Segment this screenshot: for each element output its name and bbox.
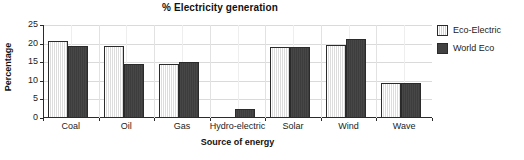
y-tick-label: 5	[20, 94, 38, 103]
legend-item[interactable]: Eco-Electric	[437, 22, 523, 38]
legend-label: World Eco	[453, 43, 494, 53]
bar	[124, 64, 144, 118]
plot-area	[43, 25, 432, 118]
y-axis-title-container: Percentage	[0, 20, 16, 120]
x-axis-label: Wind	[321, 120, 377, 132]
legend-item[interactable]: World Eco	[437, 40, 523, 56]
legend-swatch-icon	[437, 25, 448, 36]
bar	[179, 62, 199, 118]
x-axis-title: Source of energy	[43, 137, 432, 147]
x-tick-mark	[432, 118, 433, 121]
x-axis-label: Coal	[43, 120, 99, 132]
legend-swatch-icon	[437, 43, 448, 54]
x-axis-label: Wave	[376, 120, 432, 132]
bar	[270, 47, 290, 118]
x-axis-label: Oil	[99, 120, 155, 132]
x-axis-category-labels: CoalOilGasHydro-electricSolarWindWave	[43, 120, 432, 133]
y-tick-label: 10	[20, 76, 38, 85]
legend-label: Eco-Electric	[453, 25, 501, 35]
legend: Eco-ElectricWorld Eco	[437, 22, 523, 58]
y-tick-label: 15	[20, 57, 38, 66]
x-axis-label: Gas	[154, 120, 210, 132]
bar	[326, 45, 346, 118]
bar	[346, 39, 366, 118]
y-axis-title: Percentage	[3, 17, 13, 117]
bar	[48, 41, 68, 118]
chart-title: % Electricity generation	[0, 2, 440, 13]
bar	[159, 64, 179, 118]
bars-layer	[43, 25, 432, 118]
bar-chart: % Electricity generation Percentage 0510…	[0, 0, 524, 160]
x-axis-label: Hydro-electric	[210, 120, 266, 132]
x-axis-label: Solar	[265, 120, 321, 132]
bar	[290, 47, 310, 118]
bar	[235, 109, 255, 118]
y-tick-label: 0	[20, 113, 38, 122]
bar	[401, 83, 421, 118]
bar	[104, 46, 124, 118]
y-tick-label: 20	[20, 39, 38, 48]
y-tick-label: 25	[20, 20, 38, 29]
bar	[381, 83, 401, 118]
bar	[68, 46, 88, 118]
